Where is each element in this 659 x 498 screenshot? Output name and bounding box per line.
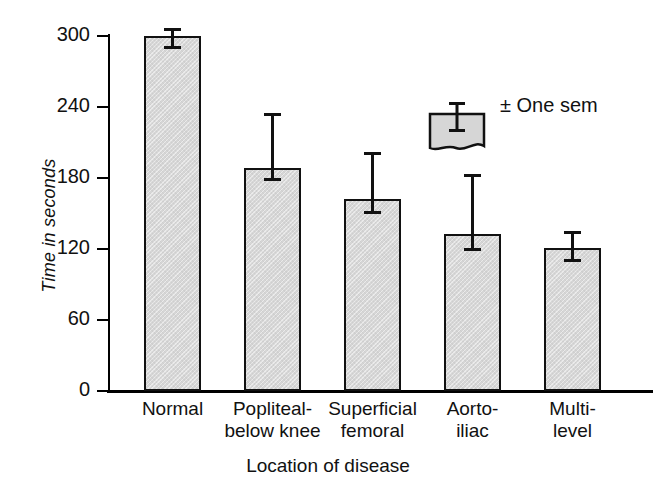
y-tick-label-0: 0	[79, 379, 90, 399]
legend-label: ± One sem	[500, 94, 598, 117]
errorbar-aorto-iliac-line	[471, 174, 474, 251]
errorbar-popliteal-cap-bottom	[264, 178, 281, 181]
y-tick-240	[97, 106, 108, 108]
errorbar-multi-level-cap-bottom	[564, 259, 581, 262]
x-tick-label-multi-line1: Multi-	[549, 398, 595, 419]
x-tick-label-superficial-line1: Superficial	[328, 398, 417, 419]
errorbar-popliteal-cap-top	[264, 113, 281, 116]
bar-normal	[144, 36, 201, 391]
errorbar-aorto-iliac-cap-top	[464, 174, 481, 177]
errorbar-popliteal-line	[271, 113, 274, 181]
bar-popliteal-below-knee	[244, 168, 301, 391]
bar-multi-level	[544, 248, 601, 391]
x-tick-label-multi-level: Multi- level	[512, 398, 633, 442]
errorbar-superficial-cap-bottom	[364, 211, 381, 214]
bar-superficial-femoral	[344, 199, 401, 391]
errorbar-normal-cap-top	[164, 28, 181, 31]
plot-area: 300 240 180 120 60 0 Time in seconds	[0, 0, 659, 498]
y-tick-label-60: 60	[68, 308, 90, 328]
bar-with-errorbar-swatch-icon	[428, 100, 490, 156]
y-tick-180	[97, 177, 108, 179]
y-tick-120	[97, 248, 108, 250]
y-axis-line	[108, 34, 110, 393]
bar-aorto-iliac	[444, 234, 501, 391]
y-tick-label-120: 120	[57, 237, 90, 257]
y-axis-title: Time in seconds	[39, 131, 60, 321]
y-tick-60	[97, 319, 108, 321]
y-tick-label-180: 180	[57, 166, 90, 186]
errorbar-multi-level-cap-top	[564, 231, 581, 234]
x-axis-title: Location of disease	[108, 455, 548, 477]
x-tick-label-multi-line2: level	[512, 420, 633, 442]
errorbar-superficial-line	[371, 152, 374, 214]
y-tick-0	[97, 390, 108, 392]
x-tick-label-popliteal-line1: Popliteal-	[233, 398, 312, 419]
x-tick-label-normal-line1: Normal	[142, 398, 203, 419]
y-tick-label-300: 300	[57, 24, 90, 44]
y-tick-label-240: 240	[57, 95, 90, 115]
errorbar-aorto-iliac-cap-bottom	[464, 248, 481, 251]
errorbar-normal-cap-bottom	[164, 46, 181, 49]
errorbar-multi-level-line	[571, 231, 574, 262]
x-tick-label-aorto-line1: Aorto-	[447, 398, 499, 419]
bar-chart: 300 240 180 120 60 0 Time in seconds	[0, 0, 659, 498]
errorbar-superficial-cap-top	[364, 152, 381, 155]
y-tick-300	[97, 35, 108, 37]
